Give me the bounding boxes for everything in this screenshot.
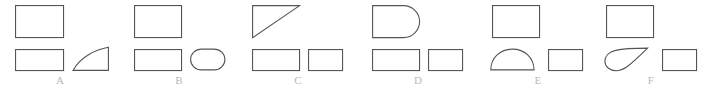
group-d-label: D [358,75,478,86]
group-f-bottom-rectangle [662,49,698,72]
shape-group-c: C [238,0,358,90]
group-e-top-rectangle [492,5,541,39]
group-a-curved-triangle [72,46,111,72]
shape-group-b: B [120,0,238,90]
shape-group-f: F [598,0,704,90]
group-d-d-shape [372,5,421,39]
group-a-top-rectangle [15,5,65,39]
group-e-semicircle-dome [490,48,536,72]
group-f-label: F [598,75,704,86]
group-c-bottom-rectangle-2 [308,49,344,72]
group-e-bottom-rectangle [548,49,584,72]
group-d-bottom-rectangle-1 [372,49,421,72]
shape-group-d: D [358,0,478,90]
group-b-stadium-oval [190,48,227,72]
group-d-bottom-rectangle-2 [428,49,464,72]
group-c-right-triangle [252,5,301,39]
group-a-bottom-rectangle [15,49,65,72]
group-c-label: C [238,75,358,86]
shape-group-e: E [478,0,598,90]
group-b-top-rectangle [134,5,183,39]
group-b-bottom-rectangle [134,49,183,72]
shape-decomposition-figure: A B [0,0,704,90]
group-a-label: A [0,75,120,86]
group-b-label: B [120,75,238,86]
group-c-bottom-rectangle-1 [252,49,301,72]
shape-group-a: A [0,0,120,90]
group-f-teardrop [604,47,650,72]
group-e-label: E [478,75,598,86]
group-f-top-rectangle [606,5,655,39]
